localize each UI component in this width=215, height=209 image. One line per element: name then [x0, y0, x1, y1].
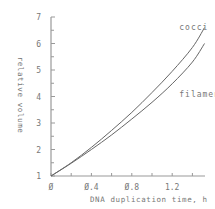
x-tick-label: Ø.4	[84, 182, 99, 192]
x-axis-title: DNA duplication time, h	[90, 195, 208, 204]
y-tick-label: 7	[36, 13, 41, 22]
series-line-filaments	[51, 44, 205, 177]
series-label-filaments: filaments	[179, 90, 215, 99]
x-tick-label: 1.2	[165, 183, 180, 192]
y-axis: 1234567	[36, 13, 55, 181]
series-lines	[51, 28, 205, 176]
x-tick-label: Ø.8	[125, 182, 140, 192]
line-chart: 1234567 ØØ.4Ø.81.2 relative volume DNA d…	[0, 0, 215, 209]
series-line-cocci	[51, 28, 205, 176]
y-tick-label: 2	[36, 146, 41, 155]
y-tick-label: 5	[36, 66, 41, 75]
y-tick-label: 6	[36, 40, 41, 49]
series-labels: coccifilaments	[179, 23, 215, 98]
series-label-cocci: cocci	[179, 23, 208, 32]
x-tick-label: Ø	[49, 182, 54, 192]
y-tick-label: 4	[36, 93, 41, 102]
y-tick-label: 1	[36, 172, 41, 181]
y-tick-label: 3	[36, 119, 41, 128]
x-axis: ØØ.4Ø.81.2	[49, 173, 205, 192]
y-axis-title: relative volume	[16, 57, 25, 134]
